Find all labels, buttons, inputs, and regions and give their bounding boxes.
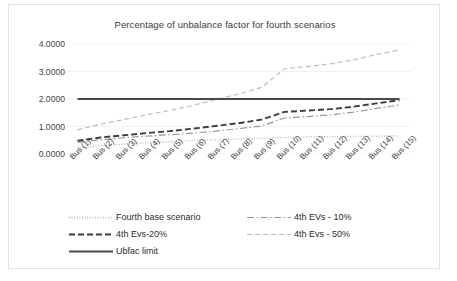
legend-item[interactable]: 4th Evs-20% — [69, 229, 167, 239]
legend-item-label: 4th EVs - 10% — [294, 212, 352, 222]
x-axis: Bus (1)Bus (2)Bus (3)Bus (4)Bus (5)Bus (… — [66, 155, 411, 207]
series-line-1 — [78, 105, 400, 142]
legend-line-swatch-icon — [69, 247, 113, 256]
legend-line-swatch-icon — [247, 213, 291, 222]
series-line-2 — [78, 100, 400, 141]
legend-item[interactable]: 4th EVs - 10% — [247, 212, 352, 222]
plot-svg — [66, 44, 411, 154]
legend-line-swatch-icon — [69, 230, 113, 239]
legend-item-label: 4th Evs-20% — [116, 229, 167, 239]
y-axis-tick-label: 1.0000 — [21, 122, 65, 132]
y-axis-tick-label: 2.0000 — [21, 94, 65, 104]
plot-area — [66, 44, 411, 154]
legend-item[interactable]: 4th Evs - 50% — [247, 229, 350, 239]
legend-line-swatch-icon — [69, 213, 113, 222]
series-line-3 — [78, 50, 400, 130]
y-axis-tick-label: 4.0000 — [21, 39, 65, 49]
legend-item-label: Ubfac limit — [116, 246, 158, 256]
legend-item-label: Fourth base scenario — [116, 212, 201, 222]
chart-container: Percentage of unbalance factor for fourt… — [8, 4, 440, 269]
legend-item-label: 4th Evs - 50% — [294, 229, 350, 239]
y-axis-tick-label: 0.0000 — [21, 149, 65, 159]
y-axis: 0.00001.00002.00003.00004.0000 — [21, 39, 65, 159]
legend-line-swatch-icon — [247, 230, 291, 239]
chart-title: Percentage of unbalance factor for fourt… — [9, 19, 441, 30]
y-axis-tick-label: 3.0000 — [21, 67, 65, 77]
legend-item[interactable]: Fourth base scenario — [69, 212, 201, 222]
legend-item[interactable]: Ubfac limit — [69, 246, 158, 256]
chart-legend: Fourth base scenario4th EVs - 10%4th Evs… — [39, 212, 419, 262]
